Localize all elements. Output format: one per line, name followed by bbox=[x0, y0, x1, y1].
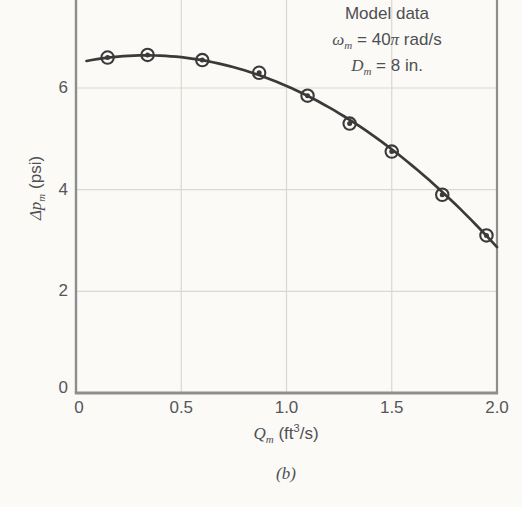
x-tick-label: 1.5 bbox=[380, 398, 404, 418]
flow-symbol: Q bbox=[253, 424, 265, 443]
omega-value: = 40 bbox=[352, 30, 390, 49]
y-tick-label: 2 bbox=[28, 281, 68, 301]
figure-caption: (b) bbox=[276, 464, 296, 484]
data-point-center-dot bbox=[484, 233, 489, 238]
data-point-center-dot bbox=[389, 149, 394, 154]
y-tick-label: 0 bbox=[28, 378, 68, 398]
x-axis-unit-close: /s) bbox=[300, 424, 319, 443]
model-data-curve bbox=[87, 55, 498, 247]
omega-symbol: ω bbox=[332, 30, 344, 49]
y-axis-unit: (psi) bbox=[26, 156, 45, 194]
annotation-omega-line: ωm = 40π rad/s bbox=[302, 27, 472, 53]
delta-p-symbol: Δp bbox=[26, 202, 45, 220]
diameter-value: = 8 in. bbox=[371, 56, 423, 75]
pump-model-data-chart: 024600.51.01.52.0 Model data ωm = 40π ra… bbox=[0, 0, 522, 507]
x-tick-label: 0 bbox=[74, 398, 83, 418]
pi-symbol: π bbox=[391, 30, 400, 49]
x-axis-unit-open: (ft bbox=[274, 424, 294, 443]
data-point-center-dot bbox=[347, 121, 352, 126]
x-tick-label: 0.5 bbox=[169, 398, 193, 418]
delta-p-subscript: m bbox=[35, 194, 47, 202]
data-point-center-dot bbox=[145, 52, 150, 57]
x-tick-label: 1.0 bbox=[275, 398, 299, 418]
y-tick-label: 6 bbox=[28, 78, 68, 98]
omega-unit: rad/s bbox=[399, 30, 442, 49]
data-point-center-dot bbox=[200, 58, 205, 63]
data-point-center-dot bbox=[257, 70, 262, 75]
data-point-center-dot bbox=[305, 93, 310, 98]
annotation-diameter-line: Dm = 8 in. bbox=[302, 53, 472, 79]
x-tick-label: 2.0 bbox=[485, 398, 509, 418]
data-point-center-dot bbox=[105, 55, 110, 60]
diameter-symbol: D bbox=[351, 56, 363, 75]
annotation-model-data: Model data ωm = 40π rad/s Dm = 8 in. bbox=[302, 1, 472, 79]
annotation-title: Model data bbox=[302, 1, 472, 27]
x-axis-label: Qm (ft3/s) bbox=[253, 424, 318, 444]
y-axis-label: Δpm (psi) bbox=[26, 156, 46, 220]
data-point-center-dot bbox=[440, 192, 445, 197]
